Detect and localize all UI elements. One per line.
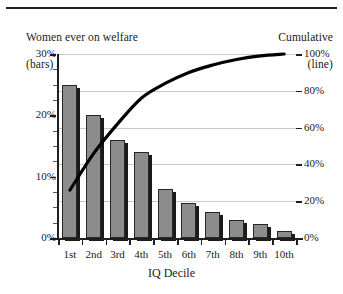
x-axis-tick-label: 6th	[182, 248, 196, 260]
right-axis-tick-label: 40%	[304, 157, 324, 169]
x-axis-tick-mark	[129, 239, 131, 245]
bar	[134, 152, 149, 238]
right-axis-tick-mark	[296, 164, 302, 166]
bar	[158, 189, 173, 238]
right-axis-tick-mark	[296, 128, 302, 130]
bar	[229, 220, 244, 238]
x-axis-tick-mark	[58, 239, 60, 245]
gridline	[58, 54, 296, 55]
bar-body	[158, 189, 173, 238]
x-axis-tick-mark	[82, 239, 84, 245]
x-axis-tick-mark	[296, 239, 298, 245]
right-axis-tick-mark	[296, 54, 302, 56]
left-axis-minor-tick	[53, 69, 57, 70]
bar-body	[86, 115, 101, 238]
right-axis-tick-label: 60%	[304, 121, 324, 133]
left-axis-minor-tick	[53, 131, 57, 132]
left-axis-tick-label: 20%	[36, 108, 56, 120]
bar	[277, 231, 292, 238]
chart-figure: Women ever on welfare (bars) Cumulative …	[0, 0, 343, 294]
x-axis-tick-mark	[153, 239, 155, 245]
right-axis-tick-label: 100%	[304, 47, 330, 59]
right-axis-tick-mark	[296, 201, 302, 203]
left-axis-minor-tick	[53, 85, 57, 86]
x-axis-tick-label: 5th	[158, 248, 172, 260]
right-axis-tick-label: 20%	[304, 194, 324, 206]
left-axis-minor-tick	[53, 223, 57, 224]
bar-body	[229, 220, 244, 238]
bar-body	[62, 85, 77, 238]
bar-body	[277, 231, 292, 238]
right-axis-tick-mark	[296, 91, 302, 93]
x-axis-title: IQ Decile	[0, 266, 343, 281]
right-axis-tick-label: 80%	[304, 84, 324, 96]
bar-body	[253, 224, 268, 238]
bar-body	[134, 152, 149, 238]
x-axis-tick-label: 3rd	[110, 248, 125, 260]
left-axis-title-line1: Women ever on welfare	[26, 31, 138, 45]
left-axis-tick-label: 0%	[41, 231, 56, 243]
left-axis-minor-tick	[53, 146, 57, 147]
bar	[253, 224, 268, 238]
bar	[62, 85, 77, 238]
left-axis-minor-tick	[53, 100, 57, 101]
x-axis-tick-label: 10th	[274, 248, 294, 260]
bar	[86, 115, 101, 238]
bar	[110, 140, 125, 238]
left-axis-minor-tick	[53, 207, 57, 208]
right-axis-tick-label: 0%	[304, 231, 319, 243]
x-axis-tick-label: 7th	[206, 248, 220, 260]
x-axis-tick-label: 9th	[253, 248, 267, 260]
x-axis-tick-mark	[201, 239, 203, 245]
plot-area	[58, 54, 296, 238]
bar	[181, 203, 196, 238]
x-axis-tick-mark	[272, 239, 274, 245]
x-axis-tick-label: 2nd	[85, 248, 102, 260]
x-axis-tick-label: 1st	[63, 248, 76, 260]
x-axis-tick-label: 8th	[229, 248, 243, 260]
x-axis-tick-mark	[225, 239, 227, 245]
bar-body	[110, 140, 125, 238]
left-axis-minor-tick	[53, 161, 57, 162]
x-axis-tick-mark	[248, 239, 250, 245]
x-axis-tick-label: 4th	[134, 248, 148, 260]
bar	[205, 212, 220, 238]
left-axis-minor-tick	[53, 192, 57, 193]
right-axis-title-line1: Cumulative	[278, 31, 333, 45]
bar-body	[181, 203, 196, 238]
gridline	[58, 91, 296, 92]
left-axis-line	[57, 54, 59, 239]
x-axis-tick-mark	[106, 239, 108, 245]
x-axis-tick-mark	[177, 239, 179, 245]
bar-body	[205, 212, 220, 238]
left-axis-tick-label: 10%	[36, 170, 56, 182]
left-axis-tick-label: 30%	[36, 47, 56, 59]
top-horizontal-rule	[6, 7, 337, 9]
